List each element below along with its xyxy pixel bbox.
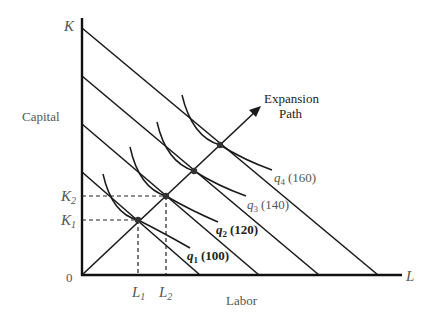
tangency-point-q1 bbox=[135, 217, 141, 223]
x-axis-symbol: L bbox=[405, 268, 414, 284]
origin-label: 0 bbox=[66, 270, 73, 285]
l1-label: L1 bbox=[131, 284, 145, 302]
isoquant-label-q2: q2(120) bbox=[216, 222, 258, 239]
isoquant-q4 bbox=[182, 95, 272, 170]
expansion-path-label-line2: Path bbox=[279, 106, 303, 121]
isoquant-label-q3: q3(140) bbox=[247, 197, 289, 214]
isoquant-label-q1: q1(100) bbox=[187, 248, 229, 265]
k1-label: K1 bbox=[60, 212, 76, 230]
isoquant-label-q4: q4(160) bbox=[274, 170, 316, 187]
x-axis-label: Labor bbox=[226, 293, 258, 308]
y-axis-label: Capital bbox=[22, 109, 60, 124]
k2-label: K2 bbox=[60, 188, 76, 206]
tangency-point-q2 bbox=[163, 193, 169, 199]
axes bbox=[81, 18, 402, 276]
expansion-path-label-line1: Expansion bbox=[264, 91, 319, 106]
expansion-path-diagram: K L Capital Labor 0 K2 K1 L1 L2 Expansio… bbox=[0, 0, 433, 325]
y-axis-symbol: K bbox=[63, 18, 75, 34]
tangency-point-q4 bbox=[217, 142, 223, 148]
isocost-line-2 bbox=[82, 124, 259, 275]
l2-label: L2 bbox=[158, 284, 172, 302]
isocost-line-1 bbox=[82, 172, 200, 275]
tangency-point-q3 bbox=[191, 168, 197, 174]
